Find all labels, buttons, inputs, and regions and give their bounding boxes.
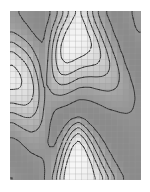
figure-container (0, 0, 150, 192)
heatmap-layer (10, 11, 141, 180)
contour-heatmap-panel[interactable] (10, 11, 141, 180)
